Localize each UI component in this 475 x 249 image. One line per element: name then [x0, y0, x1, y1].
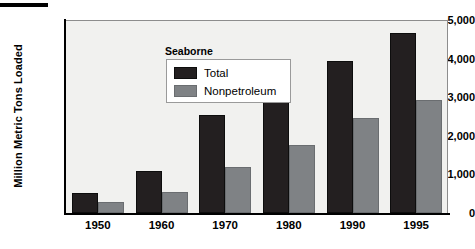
bar-total-1960	[136, 171, 162, 213]
top-rule-divider	[0, 3, 48, 7]
bar-nonpetroleum-1995	[416, 100, 442, 213]
x-axis-tick-label-1950: 1950	[85, 219, 111, 231]
legend-item-total: Total	[174, 65, 228, 81]
bar-total-1950	[72, 193, 98, 213]
y-axis-title: Million Metric Tons Loaded	[12, 16, 24, 216]
bar-nonpetroleum-1990	[353, 118, 379, 213]
legend-frame: Total Nonpetroleum	[166, 59, 291, 103]
bar-nonpetroleum-1980	[289, 145, 315, 213]
bar-total-1990	[327, 61, 353, 213]
plot-area: Seaborne Total Nonpetroleum	[66, 20, 448, 213]
x-axis-tick-label-1995: 1995	[403, 219, 429, 231]
legend-swatch-total-icon	[174, 67, 197, 79]
x-axis-tick-label-1960: 1960	[149, 219, 175, 231]
bar-total-1970	[199, 115, 225, 213]
legend-label-total: Total	[204, 67, 228, 79]
bar-total-1995	[390, 33, 416, 213]
bar-chart-figure: Million Metric Tons Loaded 01,0002,0003,…	[0, 0, 475, 249]
x-axis-line	[64, 213, 450, 215]
x-axis-tick-label-1980: 1980	[276, 219, 302, 231]
x-axis-tick-label-1970: 1970	[212, 219, 238, 231]
legend-title: Seaborne	[165, 45, 213, 57]
bar-nonpetroleum-1960	[162, 192, 188, 213]
bar-nonpetroleum-1970	[225, 167, 251, 213]
bar-nonpetroleum-1950	[98, 202, 124, 213]
x-axis-tick-label-1990: 1990	[340, 219, 366, 231]
legend-item-nonpetroleum: Nonpetroleum	[174, 83, 276, 99]
legend-swatch-nonpetroleum-icon	[174, 85, 197, 97]
chart-legend: Seaborne Total Nonpetroleum	[159, 43, 291, 103]
legend-label-nonpetroleum: Nonpetroleum	[204, 85, 276, 97]
